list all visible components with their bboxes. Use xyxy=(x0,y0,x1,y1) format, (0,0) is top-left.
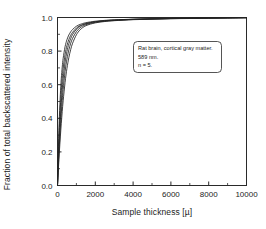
annotation-line-2: 589 nm. xyxy=(138,54,159,60)
x-tick-label-1: 2000 xyxy=(86,190,104,199)
x-tick-label-0: 0 xyxy=(55,190,60,199)
y-tick-label-1: 0.2 xyxy=(41,148,53,157)
annotation-box: Rat brain, cortical gray matter. 589 nm.… xyxy=(134,42,222,73)
annotation-line-3: n = 5. xyxy=(138,62,153,68)
y-tick-label-0: 0.0 xyxy=(41,182,53,191)
chart-figure: Fraction of total backscattered intensit… xyxy=(0,0,266,229)
y-tick-label-2: 0.4 xyxy=(41,114,53,123)
x-axis-tick-labels: 0200040006000800010000 xyxy=(55,190,258,199)
annotation-line-1: Rat brain, cortical gray matter. xyxy=(138,45,213,51)
x-tick-label-2: 4000 xyxy=(124,190,142,199)
x-tick-label-3: 6000 xyxy=(162,190,180,199)
y-tick-label-4: 0.8 xyxy=(41,47,53,56)
y-tick-label-5: 1.0 xyxy=(41,14,53,23)
x-tick-label-5: 10000 xyxy=(235,190,258,199)
y-tick-label-3: 0.6 xyxy=(41,81,53,90)
y-axis-tick-labels: 0.00.20.40.60.81.0 xyxy=(41,14,53,191)
x-tick-label-4: 8000 xyxy=(200,190,218,199)
plot-area: 0200040006000800010000 0.00.20.40.60.81.… xyxy=(0,0,266,229)
